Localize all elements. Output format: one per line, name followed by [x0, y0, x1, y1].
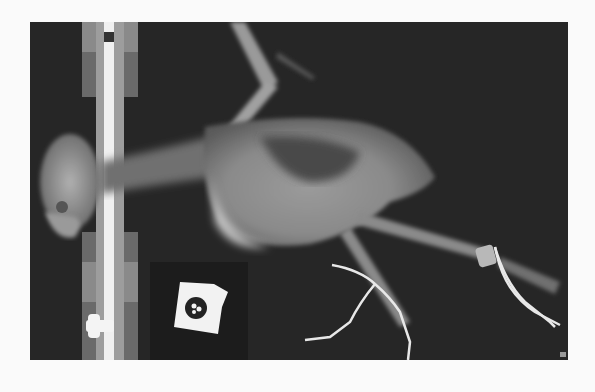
- skull: [40, 134, 100, 238]
- radiograph-content: [30, 22, 568, 360]
- radiograph: [30, 22, 568, 360]
- leads: [305, 247, 560, 360]
- wing: [228, 22, 315, 132]
- legs: [340, 212, 560, 327]
- orientation-marker: [150, 262, 248, 360]
- corner-mark: [560, 352, 566, 357]
